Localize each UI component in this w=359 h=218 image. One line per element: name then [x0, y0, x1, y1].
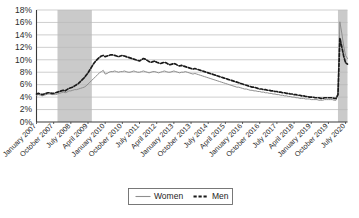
y-axis-tick-label: 12% [15, 42, 32, 52]
x-axis-tick-labels: January 2007October 2007July 2008April 2… [1, 122, 347, 159]
chart-canvas: 0%2%4%6%8%10%12%14%16%18% January 2007Oc… [0, 0, 359, 218]
y-axis-tick-labels: 0%2%4%6%8%10%12%14%16%18% [15, 5, 32, 127]
recession-2007-2009 [57, 10, 91, 122]
y-axis-tick-label: 2% [20, 104, 33, 114]
y-axis-tick-label: 18% [15, 5, 32, 15]
y-axis-tick-label: 16% [15, 17, 32, 27]
legend-label-men: Men [212, 191, 229, 201]
y-axis-tick-label: 14% [15, 30, 32, 40]
recession-bands-group [57, 10, 347, 122]
legend-label-women: Women [154, 191, 183, 201]
y-axis-tick-label: 8% [20, 67, 33, 77]
y-axis-tick-label: 4% [20, 92, 33, 102]
y-axis-tick-label: 6% [20, 79, 33, 89]
unemployment-rate-line-chart: 0%2%4%6%8%10%12%14%16%18% January 2007Oc… [0, 0, 359, 218]
chart-legend: WomenMen [129, 189, 233, 205]
y-axis-tick-label: 10% [15, 55, 32, 65]
